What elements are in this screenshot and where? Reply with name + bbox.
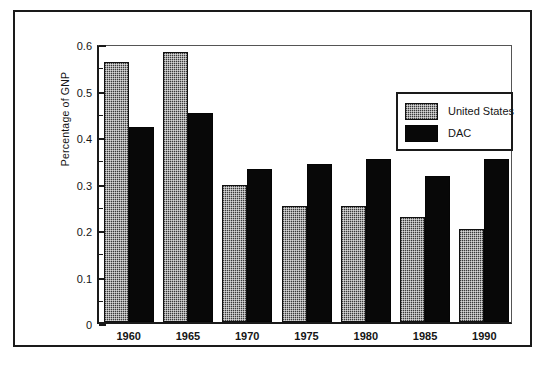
y-tick-label: 0.2 — [77, 226, 92, 238]
legend-label-united-states: United States — [448, 105, 514, 117]
bar-united-states — [459, 229, 484, 322]
y-tick-label: 0.5 — [77, 87, 92, 99]
y-tick-major — [99, 324, 106, 326]
x-tick-label: 1960 — [116, 330, 140, 342]
bar-dac — [307, 164, 332, 322]
figure-outer-frame: Percentage of GNP 00.10.20.30.40.50.6 19… — [13, 10, 532, 347]
bar-dac — [425, 176, 450, 322]
bar-united-states — [222, 185, 247, 322]
chart-legend: United States DAC — [396, 92, 513, 151]
bar-dac — [247, 169, 272, 322]
bar-united-states — [400, 217, 425, 322]
y-axis-title: Percentage of GNP — [59, 19, 71, 219]
bar-dac — [129, 127, 154, 322]
y-tick-label: 0 — [86, 319, 92, 331]
x-tick-label: 1980 — [354, 330, 378, 342]
legend-label-dac: DAC — [448, 127, 471, 139]
x-tick-label: 1970 — [235, 330, 259, 342]
y-tick-label: 0.1 — [77, 273, 92, 285]
y-tick-label: 0.6 — [77, 40, 92, 52]
bar-united-states — [163, 52, 188, 322]
legend-item-united-states: United States — [405, 100, 504, 122]
legend-item-dac: DAC — [405, 122, 504, 144]
y-tick-label: 0.4 — [77, 133, 92, 145]
x-tick-label: 1975 — [294, 330, 318, 342]
bar-united-states — [282, 206, 307, 322]
bar-united-states — [104, 62, 129, 322]
x-tick-label: 1985 — [413, 330, 437, 342]
y-tick-label: 0.3 — [77, 180, 92, 192]
dac-solid-swatch — [405, 125, 438, 142]
bar-dac — [366, 159, 391, 322]
x-tick-label: 1965 — [176, 330, 200, 342]
bar-dac — [484, 159, 509, 322]
chart-figure: Percentage of GNP 00.10.20.30.40.50.6 19… — [0, 0, 546, 365]
us-hatched-swatch — [405, 103, 438, 120]
bar-dac — [188, 113, 213, 322]
x-tick-label: 1990 — [472, 330, 496, 342]
plot-area: 00.10.20.30.40.50.6 19601965197019751980… — [97, 45, 512, 324]
bars-layer — [99, 46, 511, 322]
bar-united-states — [341, 206, 366, 322]
